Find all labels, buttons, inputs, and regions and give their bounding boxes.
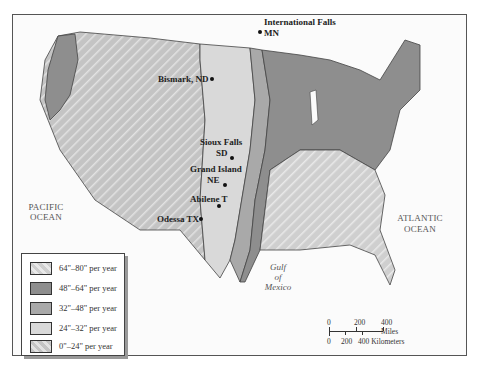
legend-item: 64"–80" per year xyxy=(30,259,117,277)
city-label-international-falls-state: MN xyxy=(264,28,279,38)
city-label-odessa: Odessa TX xyxy=(157,214,199,224)
legend-label: 24"–32" per year xyxy=(59,323,117,333)
legend-swatch xyxy=(30,322,52,335)
city-label-grand-island: Grand Island xyxy=(190,164,242,174)
city-dot-odessa xyxy=(199,217,203,221)
legend-swatch-hatched xyxy=(30,262,52,275)
atlantic-ocean-label-line2: OCEAN xyxy=(395,224,445,234)
city-label-grand-island-state: NE xyxy=(207,175,220,185)
gulf-label-line1: Gulf xyxy=(258,262,298,272)
pacific-ocean-label-line2: OCEAN xyxy=(26,212,66,222)
legend: 64"–80" per year 48"–64" per year 32"–48… xyxy=(21,253,125,356)
atlantic-ocean-label-line1: ATLANTIC xyxy=(395,213,445,223)
pacific-ocean-label-line1: PACIFIC xyxy=(26,202,66,212)
scale-mile-200: 200 xyxy=(354,318,365,327)
scale-km-0: 0 xyxy=(327,337,331,346)
city-label-sioux-falls-state: SD xyxy=(216,148,228,158)
legend-swatch xyxy=(30,282,52,295)
legend-label: 0"–24" per year xyxy=(59,341,113,351)
gulf-label-line3: Mexico xyxy=(258,282,298,292)
scale-line xyxy=(329,331,383,332)
city-label-bismark: Bismark, ND xyxy=(158,74,209,84)
legend-label: 64"–80" per year xyxy=(59,263,117,273)
city-dot-abilene xyxy=(217,204,221,208)
scale-km-200: 200 xyxy=(341,337,352,346)
city-dot-grand-island xyxy=(223,183,227,187)
legend-item: 48"–64" per year xyxy=(30,279,117,297)
legend-swatch xyxy=(30,302,52,315)
legend-item: 24"–32" per year xyxy=(30,319,117,337)
city-dot-international-falls xyxy=(258,30,262,34)
legend-swatch-hatched xyxy=(30,340,52,353)
city-dot-sioux-falls xyxy=(230,156,234,160)
gulf-label-line2: of xyxy=(258,272,298,282)
city-label-sioux-falls: Sioux Falls xyxy=(200,137,242,147)
legend-item: 32"–48" per year xyxy=(30,299,117,317)
legend-item: 0"–24" per year xyxy=(30,337,113,355)
city-dot-bismark xyxy=(210,77,214,81)
legend-label: 32"–48" per year xyxy=(59,303,117,313)
scale-km-400: 400 Kilometers xyxy=(358,337,404,346)
scale-mile-0: 0 xyxy=(327,318,331,327)
city-label-abilene: Abilene T xyxy=(190,194,228,204)
legend-label: 48"–64" per year xyxy=(59,283,117,293)
scale-mile-400: 400 Miles xyxy=(381,318,407,336)
city-label-international-falls: International Falls xyxy=(264,17,336,27)
scale-bar: 0 200 400 Miles 0 200 400 Kilometers xyxy=(327,318,407,358)
